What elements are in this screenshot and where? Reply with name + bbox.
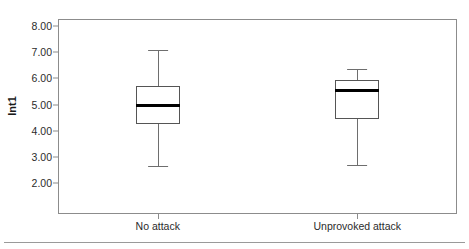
whisker-cap-lower	[347, 165, 367, 166]
whisker-cap-lower	[148, 166, 168, 167]
box-iqr	[335, 80, 379, 119]
median-line	[335, 89, 379, 92]
footer-divider	[4, 242, 465, 243]
box-series	[0, 0, 469, 249]
median-line	[136, 104, 180, 107]
boxplot-figure: Int1 8.007.006.005.004.003.002.00 No att…	[0, 0, 469, 249]
whisker-cap-upper	[148, 50, 168, 51]
whisker-cap-upper	[347, 69, 367, 70]
